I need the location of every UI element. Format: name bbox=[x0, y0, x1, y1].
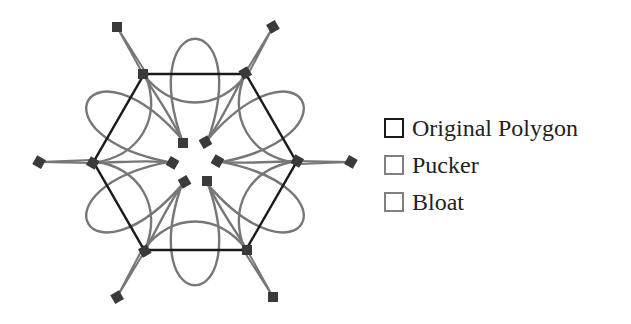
legend-item-pucker: Pucker bbox=[384, 146, 578, 183]
legend-label: Pucker bbox=[412, 153, 479, 177]
swatch-original-icon bbox=[384, 118, 404, 138]
legend-item-original-polygon: Original Polygon bbox=[384, 109, 578, 146]
legend-label: Original Polygon bbox=[412, 116, 578, 140]
pucker-bloat-diagram bbox=[0, 0, 400, 324]
legend-item-bloat: Bloat bbox=[384, 183, 578, 220]
legend-label: Bloat bbox=[412, 190, 464, 214]
swatch-pucker-icon bbox=[384, 155, 404, 175]
swatch-bloat-icon bbox=[384, 192, 404, 212]
legend: Original Polygon Pucker Bloat bbox=[384, 109, 578, 220]
